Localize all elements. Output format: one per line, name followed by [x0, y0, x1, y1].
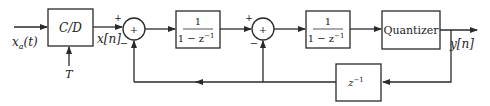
svg-text:+: + [245, 13, 253, 23]
feedback-to-delay [383, 30, 451, 82]
quantizer-block: Quantizer [382, 11, 440, 49]
input-signal: xa(t) [12, 27, 47, 51]
svg-text:−: − [250, 38, 258, 49]
svg-text:+: + [259, 24, 267, 35]
svg-text:−: − [120, 38, 128, 49]
svg-text:xa(t): xa(t) [12, 35, 38, 51]
delay-block: z−1 [336, 64, 381, 101]
xn-label: x[n] [97, 32, 121, 46]
adder-2: + + − [245, 13, 274, 49]
cd-converter-block: C/D [48, 9, 93, 46]
svg-text:+: + [114, 13, 122, 23]
svg-text:1: 1 [195, 16, 201, 27]
sampling-period-input: T [65, 47, 74, 81]
svg-text:1: 1 [325, 16, 331, 27]
block-diagram: xa(t) C/D T x[n] + + − 1 1 − z−1 + + − 1 [0, 0, 490, 106]
svg-text:1 − z−1: 1 − z−1 [308, 32, 345, 44]
integrator-block-2: 1 1 − z−1 [306, 11, 350, 48]
svg-text:Quantizer: Quantizer [383, 24, 439, 37]
svg-text:T: T [65, 68, 74, 81]
yn-label: y[n] [449, 37, 474, 51]
svg-text:+: + [130, 24, 138, 35]
svg-text:z−1: z−1 [347, 76, 364, 88]
adder-1: + + − [114, 13, 145, 49]
svg-text:1 − z−1: 1 − z−1 [178, 32, 215, 44]
svg-text:C/D: C/D [59, 21, 82, 35]
integrator-block-1: 1 1 − z−1 [176, 11, 220, 48]
